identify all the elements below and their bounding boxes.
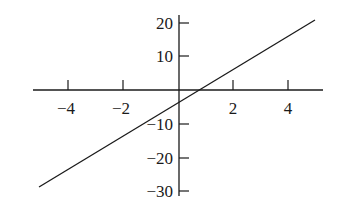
y-tick-label: 20 [156,14,173,33]
x-tick-labels: −4 −2 2 4 [57,99,293,118]
y-ticks [179,23,189,191]
x-ticks [68,80,288,90]
line-chart: −4 −2 2 4 20 10 −10 −20 −30 [0,0,344,209]
y-tick-label: −20 [146,149,173,168]
x-tick-label: −4 [57,99,76,118]
y-tick-label: 10 [156,47,173,66]
y-tick-labels: 20 10 −10 −20 −30 [146,14,173,201]
x-tick-label: 2 [229,99,238,118]
data-line [39,20,315,187]
x-tick-label: −2 [112,99,130,118]
x-tick-label: 4 [284,99,293,118]
y-tick-label: −30 [146,182,173,201]
y-tick-label: −10 [146,115,173,134]
